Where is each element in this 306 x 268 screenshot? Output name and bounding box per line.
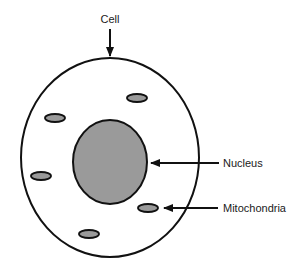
mitochondria-label: Mitochondria [223, 202, 287, 214]
mitochondrion [127, 94, 147, 102]
nucleus [73, 120, 147, 204]
cell-label: Cell [101, 13, 120, 25]
mitochondrion [45, 114, 65, 122]
diagram-canvas: Cell Nucleus Mitochondria [0, 0, 306, 268]
mitochondrion [31, 172, 51, 180]
mitochondrion [79, 230, 99, 238]
mitochondrion [138, 204, 158, 212]
cell-diagram: Cell Nucleus Mitochondria [0, 0, 306, 268]
nucleus-label: Nucleus [223, 157, 263, 169]
